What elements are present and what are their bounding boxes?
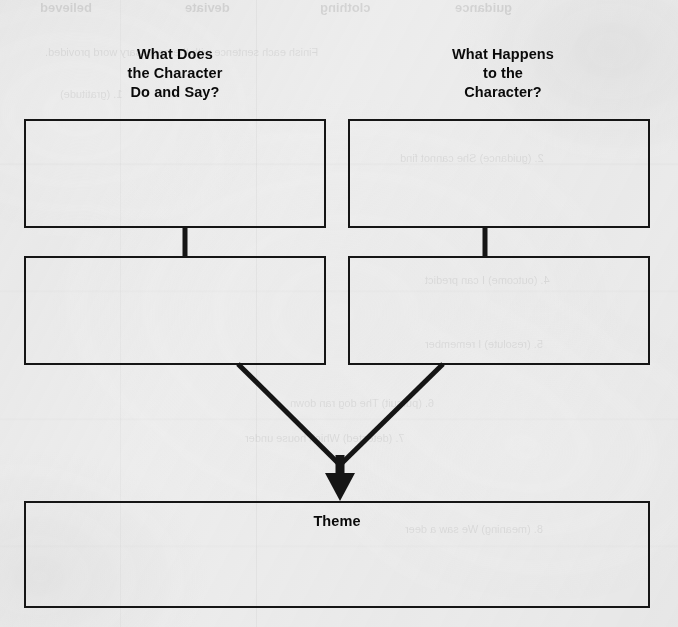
heading-line: What Does bbox=[84, 45, 266, 64]
ghost-text: 6. (pursuit) The dog ran down bbox=[290, 397, 434, 409]
connector-diagonal-left bbox=[238, 364, 340, 465]
ghost-text: clothing bbox=[320, 0, 371, 15]
heading-line: to the bbox=[412, 64, 594, 83]
ghost-text: guidance bbox=[455, 0, 512, 15]
answer-box-happens-to-2[interactable] bbox=[348, 256, 650, 365]
answer-box-happens-to-1[interactable] bbox=[348, 119, 650, 228]
ghost-text: deviate bbox=[185, 0, 230, 15]
ghost-text: believed bbox=[40, 0, 92, 15]
theme-label: Theme bbox=[24, 513, 650, 529]
heading-line: the Character bbox=[84, 64, 266, 83]
answer-box-do-and-say-1[interactable] bbox=[24, 119, 326, 228]
heading-line: Do and Say? bbox=[84, 83, 266, 102]
worksheet-page: believeddeviateclothingguidanceFinish ea… bbox=[0, 0, 678, 627]
connector-diagonal-right bbox=[340, 364, 443, 465]
heading-what-happens-to-character: What Happens to the Character? bbox=[412, 45, 594, 102]
heading-line: What Happens bbox=[412, 45, 594, 64]
ghost-text: 7. (detested) Which house under bbox=[245, 432, 405, 444]
heading-line: Character? bbox=[412, 83, 594, 102]
arrow-head-icon bbox=[325, 473, 355, 501]
answer-box-do-and-say-2[interactable] bbox=[24, 256, 326, 365]
heading-what-does-character-do-and-say: What Does the Character Do and Say? bbox=[84, 45, 266, 102]
